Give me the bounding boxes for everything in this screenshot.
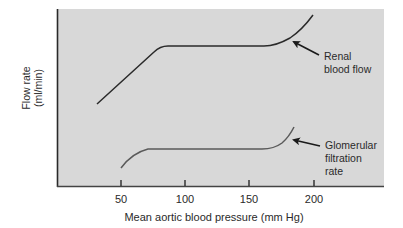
gfr-label-line1: Glomerular (325, 139, 377, 151)
chart-canvas: 50 100 150 200 Mean aortic blood pressur… (0, 0, 403, 228)
renal-label-line2: blood flow (324, 63, 372, 75)
y-axis-label-line2: (ml/min) (32, 69, 44, 107)
x-tick-label-50: 50 (115, 193, 127, 205)
x-tick-label-200: 200 (305, 193, 323, 205)
gfr-label-line3: rate (325, 165, 343, 177)
gfr-label-line2: filtration (325, 152, 362, 164)
renal-label-line1: Renal (324, 50, 351, 62)
x-tick-label-150: 150 (240, 193, 258, 205)
x-axis-label: Mean aortic blood pressure (mm Hg) (124, 211, 303, 223)
y-axis-label: Flow rate (ml/min) (20, 66, 44, 109)
x-tick-label-100: 100 (176, 193, 194, 205)
y-axis-label-line1: Flow rate (20, 66, 32, 109)
